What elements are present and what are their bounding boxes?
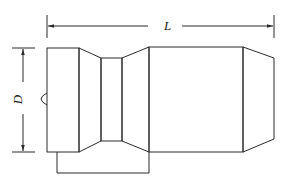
right-taper (122, 47, 149, 152)
main-body (149, 47, 243, 152)
diagram-canvas (0, 0, 287, 188)
length-dimension (47, 15, 274, 38)
diameter-label: D (11, 95, 24, 104)
bottom-bracket (57, 152, 149, 173)
left-cylinder-block (47, 48, 79, 152)
neck (101, 58, 122, 141)
nose-cone (243, 47, 274, 152)
side-bump (41, 93, 47, 105)
left-taper (79, 48, 101, 152)
length-label: L (164, 19, 171, 32)
